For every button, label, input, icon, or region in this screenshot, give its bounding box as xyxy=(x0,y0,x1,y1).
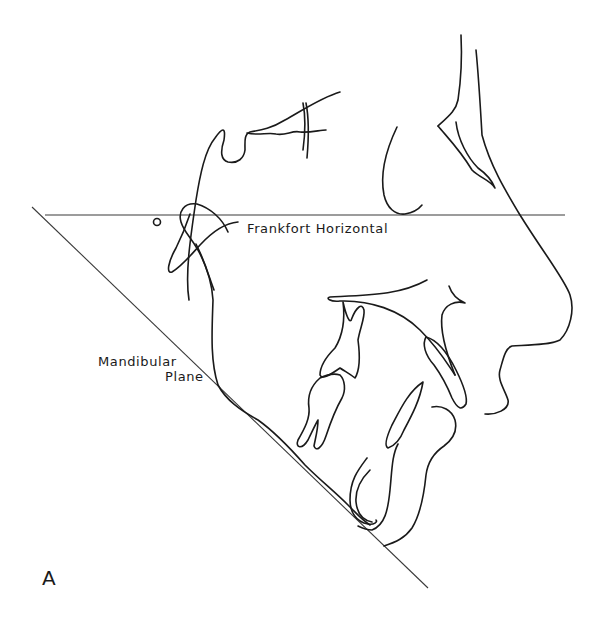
porion-marker xyxy=(154,219,161,226)
upper-molar xyxy=(320,302,364,378)
coronoid-line xyxy=(169,214,238,272)
nasal-bone xyxy=(438,122,495,188)
nasion-line-2 xyxy=(306,103,308,158)
symphysis-outer xyxy=(358,444,398,530)
lower-molar xyxy=(297,374,344,449)
forehead-soft-tissue xyxy=(438,35,461,126)
symphysis-inner-2 xyxy=(356,470,372,522)
orbit-outline xyxy=(383,127,422,214)
panel-label: A xyxy=(42,566,56,590)
soft-tissue-profile xyxy=(476,50,572,414)
lower-incisor xyxy=(386,382,423,448)
frankfort-horizontal-label: Frankfort Horizontal xyxy=(247,221,388,236)
symphysis-inner xyxy=(350,458,377,524)
mandibular-plane-line xyxy=(32,207,428,588)
palatal-plane xyxy=(328,280,455,375)
soft-tissue-chin xyxy=(384,407,456,546)
anterior-maxilla xyxy=(442,286,465,375)
mandibular-plane-label-line1: Mandibular xyxy=(98,354,177,369)
cranial-base-outline xyxy=(188,92,340,300)
cephalometric-diagram xyxy=(0,0,592,619)
mandibular-plane-label-line2: Plane xyxy=(165,369,204,384)
